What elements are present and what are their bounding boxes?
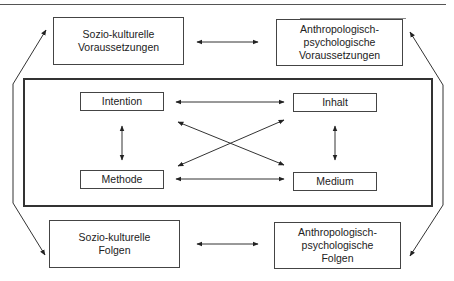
- box-label: Medium: [316, 175, 353, 188]
- diagram-canvas: Sozio-kulturelle Voraussetzungen Anthrop…: [0, 0, 454, 281]
- box-label: Methode: [102, 173, 143, 186]
- box-sozio-kulturelle-voraussetzungen: Sozio-kulturelle Voraussetzungen: [53, 17, 184, 65]
- page-top-rule: [0, 4, 446, 5]
- box-label: Sozio-kulturelle Folgen: [79, 231, 151, 257]
- box-sozio-kulturelle-folgen: Sozio-kulturelle Folgen: [49, 220, 180, 268]
- box-label: Intention: [102, 95, 142, 108]
- box-intention: Intention: [80, 92, 164, 111]
- box-label: Sozio-kulturelle Voraussetzungen: [78, 28, 159, 54]
- box-medium: Medium: [293, 172, 377, 191]
- box-anthropologisch-psychologische-folgen: Anthropologisch- psychologische Folgen: [274, 222, 401, 269]
- box-methode: Methode: [80, 170, 164, 189]
- box-label: Inhalt: [322, 96, 348, 109]
- box-anthropologisch-psychologische-voraussetzungen: Anthropologisch- psychologische Vorausse…: [276, 19, 403, 66]
- box-label: Anthropologisch- psychologische Vorausse…: [299, 23, 380, 62]
- box-inhalt: Inhalt: [293, 93, 377, 112]
- box-label: Anthropologisch- psychologische Folgen: [298, 226, 377, 265]
